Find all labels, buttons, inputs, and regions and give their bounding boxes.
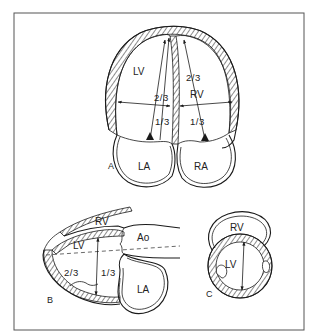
b-rv-label: RV bbox=[95, 216, 109, 227]
a-rv-upper-fraction: 2/3 bbox=[186, 72, 201, 83]
b-long-axis-dashed bbox=[46, 246, 180, 255]
b-lv-label: LV bbox=[73, 240, 85, 251]
panel-b-parasternal-long-axis: RV LV Ao LA 2/3 1/3 B bbox=[43, 207, 180, 314]
ao-anterior-wall bbox=[124, 225, 180, 228]
a-lv-lower-fraction: 1/3 bbox=[155, 116, 170, 127]
c-lv-label: LV bbox=[225, 259, 237, 270]
a-lv-label: LV bbox=[133, 66, 145, 77]
c-diameter-arrow bbox=[242, 242, 244, 290]
panel-a-label: A bbox=[108, 161, 114, 171]
panel-b-label: B bbox=[47, 295, 53, 305]
b-minor-axis-arrow bbox=[96, 238, 98, 295]
a-ra-label: RA bbox=[194, 161, 208, 172]
panel-c-short-axis: RV LV C bbox=[206, 212, 272, 299]
panel-a-apical-four-chamber: LV RV 2/3 1/3 2/3 1/3 LA RA A bbox=[106, 26, 239, 187]
heart-diagram-svg: LV RV 2/3 1/3 2/3 1/3 LA RA A RV bbox=[0, 0, 312, 333]
a-la-label: LA bbox=[138, 161, 151, 172]
a-rv-label: RV bbox=[190, 89, 204, 100]
b-basal-fraction: 1/3 bbox=[101, 267, 116, 278]
rv-minor-axis-arrow bbox=[180, 102, 232, 106]
a-rv-lower-fraction: 1/3 bbox=[190, 116, 205, 127]
b-ao-label: Ao bbox=[137, 232, 150, 243]
c-rv-label: RV bbox=[230, 222, 244, 233]
b-apical-fraction: 2/3 bbox=[64, 267, 79, 278]
figure: LV RV 2/3 1/3 2/3 1/3 LA RA A RV bbox=[0, 0, 312, 333]
panel-c-label: C bbox=[206, 289, 213, 299]
a-lv-upper-fraction: 2/3 bbox=[154, 92, 169, 103]
b-la-label: LA bbox=[137, 284, 150, 295]
